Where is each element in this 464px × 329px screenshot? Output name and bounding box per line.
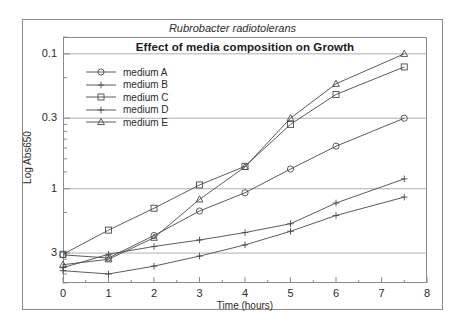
series-medium-b <box>60 194 408 277</box>
y-axis-ticks-group <box>63 37 70 283</box>
circle-marker-icon <box>84 66 118 78</box>
x-tick-label: 1 <box>99 287 119 299</box>
x-tick-label: 0 <box>53 287 73 299</box>
legend-item-medium-c[interactable]: medium C <box>84 91 169 104</box>
legend-label: medium B <box>123 79 168 90</box>
x-tick-label: 4 <box>235 287 255 299</box>
x-axis-ticks-group <box>63 277 427 283</box>
y-tick-label: 3 <box>25 246 57 258</box>
legend-item-medium-e[interactable]: medium E <box>84 116 169 129</box>
triangle-marker-icon <box>84 116 118 128</box>
x-tick-label: 6 <box>326 287 346 299</box>
plus-marker-icon <box>84 79 118 91</box>
y-tick-label: 0.1 <box>25 47 57 59</box>
series-medium-a <box>60 115 407 261</box>
x-tick-label: 3 <box>190 287 210 299</box>
legend-label: medium E <box>123 117 168 128</box>
x-tick-label: 5 <box>281 287 301 299</box>
x-tick-label: 8 <box>417 287 437 299</box>
square-marker-icon <box>84 91 118 103</box>
legend-item-medium-b[interactable]: medium B <box>84 79 169 92</box>
x-tick-label: 7 <box>372 287 392 299</box>
y-tick-label: 0.3 <box>25 111 57 123</box>
x-tick-label: 2 <box>144 287 164 299</box>
y-tick-label: 1 <box>25 182 57 194</box>
chart-figure: Rubrobacter radiotolerans Effect of medi… <box>0 0 464 329</box>
plus-marker-icon <box>84 104 118 116</box>
legend: medium Amedium Bmedium Cmedium Dmedium E <box>84 66 169 129</box>
legend-item-medium-a[interactable]: medium A <box>84 66 169 79</box>
x-axis-label: Time (hours) <box>63 300 427 311</box>
legend-label: medium C <box>123 92 169 103</box>
plot-canvas <box>0 0 464 329</box>
legend-label: medium A <box>123 67 167 78</box>
legend-label: medium D <box>123 104 169 115</box>
legend-item-medium-d[interactable]: medium D <box>84 104 169 117</box>
